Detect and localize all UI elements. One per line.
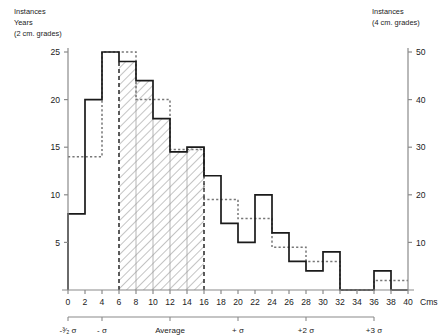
sigma-tick-label: -³⁄₂ σ	[60, 326, 77, 335]
histogram-figure: Instances Years (2 cm. grades) Instances…	[0, 0, 448, 335]
x-tick-label: 22	[250, 297, 260, 307]
x-tick-label: 24	[267, 297, 277, 307]
sigma-tick-label: - σ	[97, 326, 107, 335]
y-tick-label-right: 40	[416, 95, 426, 105]
x-tick-label: 10	[148, 297, 158, 307]
x-tick-label: 12	[165, 297, 175, 307]
left-axis-caption: Instances Years (2 cm. grades)	[14, 7, 62, 38]
y-tick-label-left: 25	[50, 47, 60, 57]
histogram-svg: Instances Years (2 cm. grades) Instances…	[0, 0, 448, 335]
left-axis-caption-line1: Instances	[14, 7, 46, 16]
left-axis-caption-line2: Years	[14, 18, 33, 27]
x-tick-label: 2	[83, 297, 88, 307]
sigma-tick-label: +3 σ	[366, 326, 382, 335]
x-tick-label: 20	[233, 297, 243, 307]
y-tick-label-right: 20	[416, 190, 426, 200]
y-tick-label-left: 20	[50, 95, 60, 105]
x-tick-label: 40	[403, 297, 413, 307]
right-axis-caption-line1: Instances	[372, 7, 404, 16]
x-tick-label: 32	[335, 297, 345, 307]
x-tick-label: 14	[182, 297, 192, 307]
x-tick-label: 16	[199, 297, 209, 307]
x-axis-unit-label: Cms	[420, 297, 438, 307]
left-axis-caption-line3: (2 cm. grades)	[14, 29, 62, 38]
x-tick-label: 6	[117, 297, 122, 307]
y-tick-label-right: 50	[416, 47, 426, 57]
shaded-region-6-16	[119, 62, 204, 290]
sigma-tick-label: Average	[155, 326, 185, 335]
x-tick-label: 28	[301, 297, 311, 307]
x-tick-label: 30	[318, 297, 328, 307]
x-tick-label: 36	[369, 297, 379, 307]
sigma-tick-label: + σ	[232, 326, 244, 335]
right-axis-caption: Instances (4 cm. grades)	[372, 7, 420, 27]
y-tick-label-right: 10	[416, 238, 426, 248]
y-tick-label-left: 10	[50, 190, 60, 200]
y-tick-label-right: 30	[416, 142, 426, 152]
x-tick-label: 18	[216, 297, 226, 307]
right-axis-caption-line2: (4 cm. grades)	[372, 18, 420, 27]
x-tick-label: 8	[134, 297, 139, 307]
plot-area: 5101520251020304050024681012141618202224…	[50, 47, 437, 335]
y-tick-label-left: 5	[55, 238, 60, 248]
y-tick-label-left: 15	[50, 142, 60, 152]
x-tick-label: 38	[386, 297, 396, 307]
x-tick-label: 26	[284, 297, 294, 307]
x-tick-label: 34	[352, 297, 362, 307]
x-tick-label: 4	[100, 297, 105, 307]
x-tick-label: 0	[66, 297, 71, 307]
sigma-tick-label: +2 σ	[298, 326, 314, 335]
